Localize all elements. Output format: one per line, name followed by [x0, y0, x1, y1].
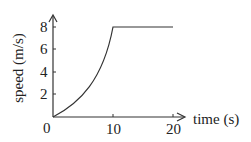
x-axis-label: time (s)	[193, 112, 239, 127]
x-tick-10: 10	[106, 122, 121, 137]
origin-label: 0	[43, 121, 51, 136]
y-tick-2: 2	[40, 87, 48, 102]
y-tick-4: 4	[40, 65, 48, 80]
y-axis-label: speed (m/s)	[10, 33, 27, 103]
y-tick-8: 8	[40, 20, 48, 35]
x-tick-20: 20	[166, 122, 181, 137]
speed-line	[53, 27, 173, 117]
y-tick-6: 6	[40, 42, 48, 57]
